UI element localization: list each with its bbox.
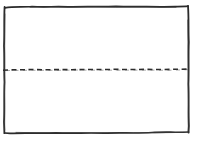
rectangle-right-edge-texture	[188, 20, 189, 131]
horizontal-divider	[3, 69, 190, 71]
sketch-canvas	[0, 0, 198, 141]
sketch-figure	[0, 0, 198, 141]
rectangle-left-edge-texture	[5, 14, 6, 130]
